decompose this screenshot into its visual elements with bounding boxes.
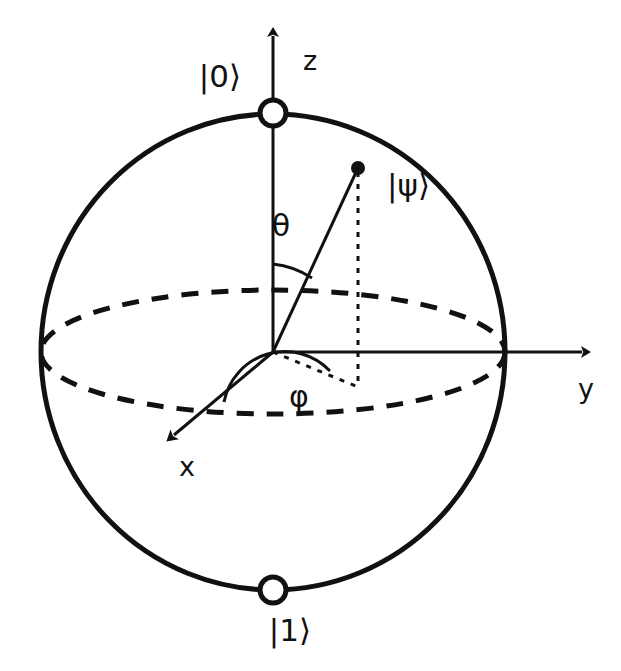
ket-one-label: |1⟩ [269,612,311,649]
theta-arc [273,264,312,278]
z-axis-label: z [303,45,317,76]
state-vector-line [273,168,358,352]
ket-zero-label: |0⟩ [199,58,241,95]
projection-radial-line [273,352,358,387]
north-pole-marker [260,100,286,126]
state-vector-endpoint-dot [351,161,365,175]
y-axis-label: y [578,373,594,404]
south-pole-marker [260,577,286,603]
bloch-sphere-figure: |0⟩ |1⟩ |ψ⟩ z y x θ φ [0,0,621,671]
theta-angle-label: θ [272,208,290,243]
x-axis-line [174,352,273,435]
ket-psi-label: |ψ⟩ [387,167,430,204]
x-axis-label: x [179,451,195,482]
bloch-sphere-canvas: |0⟩ |1⟩ |ψ⟩ z y x θ φ [0,0,621,671]
phi-angle-label: φ [289,379,309,414]
phi-arc [224,352,330,402]
